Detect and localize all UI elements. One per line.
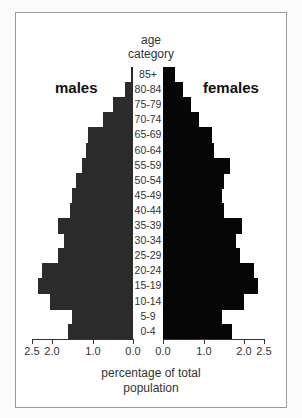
age-category-label: 25-29 (133, 248, 163, 263)
female-bar (163, 112, 199, 128)
axis-tick (52, 339, 53, 344)
male-bar (103, 112, 133, 128)
axis-tick-label: 0.0 (151, 345, 175, 357)
female-x-axis (163, 339, 265, 340)
male-bar (42, 263, 133, 279)
male-bar (38, 278, 133, 294)
axis-tick-label: 1.0 (81, 345, 105, 357)
age-category-label: 45-49 (133, 188, 163, 203)
axis-tick-label: 0.0 (121, 345, 145, 357)
axis-tick (93, 339, 94, 344)
male-bar (68, 324, 133, 340)
axis-tick (244, 339, 245, 344)
male-bar (58, 248, 133, 264)
axis-tick-label: 1.0 (192, 345, 216, 357)
male-bar (72, 309, 133, 325)
female-bar (163, 233, 236, 249)
female-bar (163, 278, 258, 294)
axis-tick (32, 339, 33, 344)
males-label: males (55, 79, 98, 96)
age-category-label: 75-79 (133, 97, 163, 112)
female-bar (163, 173, 224, 189)
females-label: females (203, 79, 259, 96)
female-bar (163, 188, 222, 204)
female-bar (163, 218, 242, 234)
age-category-label: 85+ (133, 67, 163, 82)
age-category-label: 20-24 (133, 263, 163, 278)
female-bar (163, 309, 222, 325)
chart-title-line2: category (0, 47, 302, 62)
age-category-label: 0-4 (133, 324, 163, 339)
axis-tick (264, 339, 265, 344)
male-bar (86, 143, 133, 159)
male-bar (82, 158, 133, 174)
female-bar (163, 203, 224, 219)
female-bar (163, 97, 191, 113)
age-category-label: 60-64 (133, 143, 163, 158)
x-axis-label-line2: population (0, 381, 302, 396)
age-category-label: 10-14 (133, 294, 163, 309)
axis-tick-label: 2.0 (40, 345, 64, 357)
age-category-label: 50-54 (133, 173, 163, 188)
male-bar (125, 82, 133, 98)
male-bar (58, 218, 133, 234)
x-axis-label-line1: percentage of total (0, 366, 302, 381)
age-category-label: 5-9 (133, 309, 163, 324)
chart-title-line1: age (0, 33, 302, 48)
age-category-label: 15-19 (133, 278, 163, 293)
male-bar (72, 188, 133, 204)
female-bar (163, 324, 232, 340)
male-bar (76, 173, 133, 189)
female-bar (163, 248, 240, 264)
male-bar (70, 203, 133, 219)
axis-tick (133, 339, 134, 344)
female-bar (163, 67, 175, 83)
axis-tick-label: 2.5 (252, 345, 276, 357)
male-bar (64, 233, 133, 249)
female-bar (163, 294, 244, 310)
male-x-axis (32, 339, 133, 340)
age-category-label: 30-34 (133, 233, 163, 248)
male-bar (113, 97, 133, 113)
female-bar (163, 158, 230, 174)
age-category-label: 65-69 (133, 127, 163, 142)
female-bar (163, 127, 212, 143)
male-bar (50, 294, 133, 310)
age-category-label: 80-84 (133, 82, 163, 97)
female-bar (163, 143, 214, 159)
age-category-label: 40-44 (133, 203, 163, 218)
age-category-label: 55-59 (133, 158, 163, 173)
age-category-label: 35-39 (133, 218, 163, 233)
age-category-label: 70-74 (133, 112, 163, 127)
axis-tick (204, 339, 205, 344)
male-bar (88, 127, 133, 143)
female-bar (163, 82, 183, 98)
axis-tick (163, 339, 164, 344)
female-bar (163, 263, 254, 279)
